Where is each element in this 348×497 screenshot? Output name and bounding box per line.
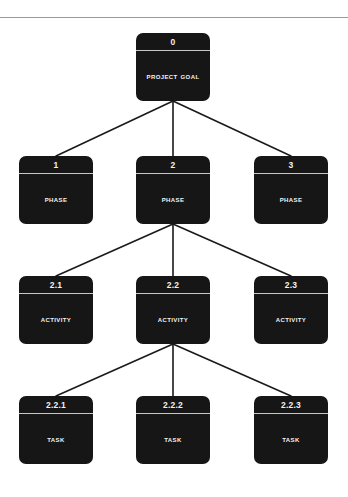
wbs-node-label: Project Goal <box>136 51 210 101</box>
wbs-node-label: Phase <box>136 174 210 224</box>
wbs-node-2-2-3[interactable]: 2.2.3Task <box>254 396 328 464</box>
wbs-node-code: 1 <box>19 156 93 174</box>
node-layer: 0Project Goal1Phase2Phase3Phase2.1Activi… <box>0 0 348 497</box>
wbs-node-2-3[interactable]: 2.3Activity <box>254 276 328 344</box>
wbs-node-code: 2 <box>136 156 210 174</box>
wbs-node-2-2[interactable]: 2.2Activity <box>136 276 210 344</box>
wbs-node-code: 2.1 <box>19 276 93 294</box>
wbs-node-label: Task <box>19 414 93 464</box>
wbs-node-code: 2.2.3 <box>254 396 328 414</box>
wbs-node-label: Task <box>254 414 328 464</box>
wbs-node-2-2-1[interactable]: 2.2.1Task <box>19 396 93 464</box>
wbs-node-code: 2.2.1 <box>19 396 93 414</box>
wbs-node-label: Task <box>136 414 210 464</box>
wbs-node-0[interactable]: 0Project Goal <box>136 33 210 101</box>
wbs-node-code: 3 <box>254 156 328 174</box>
wbs-node-code: 2.2 <box>136 276 210 294</box>
wbs-node-code: 2.3 <box>254 276 328 294</box>
wbs-node-label: Phase <box>254 174 328 224</box>
wbs-node-label: Activity <box>19 294 93 344</box>
wbs-node-2-2-2[interactable]: 2.2.2Task <box>136 396 210 464</box>
wbs-node-2[interactable]: 2Phase <box>136 156 210 224</box>
wbs-node-code: 2.2.2 <box>136 396 210 414</box>
wbs-node-label: Phase <box>19 174 93 224</box>
wbs-node-1[interactable]: 1Phase <box>19 156 93 224</box>
wbs-node-label: Activity <box>254 294 328 344</box>
wbs-node-2-1[interactable]: 2.1Activity <box>19 276 93 344</box>
wbs-node-code: 0 <box>136 33 210 51</box>
wbs-diagram: 0Project Goal1Phase2Phase3Phase2.1Activi… <box>0 0 348 497</box>
wbs-node-3[interactable]: 3Phase <box>254 156 328 224</box>
wbs-node-label: Activity <box>136 294 210 344</box>
